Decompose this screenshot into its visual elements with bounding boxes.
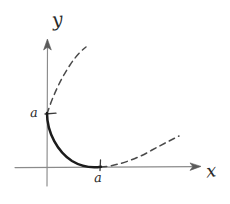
hand-drawn-curve-figure: y x a a (0, 0, 230, 204)
figure-canvas (0, 0, 230, 204)
curve-branch-upper-dashed (47, 47, 86, 114)
y-axis-tick-label-a: a (30, 106, 39, 120)
x-axis-tick-label-a: a (94, 171, 102, 184)
curve-branch-right-dashed (101, 136, 179, 167)
y-axis-label: y (51, 9, 64, 29)
x-axis-label: x (206, 161, 217, 181)
curve-principal-arc-solid (47, 113, 101, 167)
